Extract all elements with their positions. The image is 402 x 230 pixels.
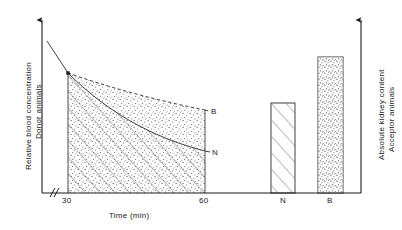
curve-b-leader xyxy=(205,110,209,111)
curve-start-marker xyxy=(66,71,69,74)
left-axis-title-line2: Donor animals xyxy=(34,84,43,139)
curve-label-b: B xyxy=(211,107,217,116)
x-tick-60: 60 xyxy=(199,196,208,205)
figure-container: Relative blood concentration Donor anima… xyxy=(0,0,402,230)
bar-label-b: B xyxy=(327,196,333,205)
x-axis-title: Time (min) xyxy=(109,211,149,220)
left-axis-title-line1: Relative blood concentration xyxy=(24,62,33,170)
x-tick-30: 30 xyxy=(62,196,71,205)
bar-label-n: N xyxy=(280,196,286,205)
bar-n-fill xyxy=(272,104,295,193)
bar-b-fill xyxy=(319,58,343,193)
curve-n-leader xyxy=(205,151,210,152)
curve-label-n: N xyxy=(212,148,218,157)
right-axis-title-line1: Absolute kidney content xyxy=(377,69,386,160)
right-axis-title-line2: Acceptor animals xyxy=(387,87,396,152)
pre-window-line xyxy=(47,41,68,73)
